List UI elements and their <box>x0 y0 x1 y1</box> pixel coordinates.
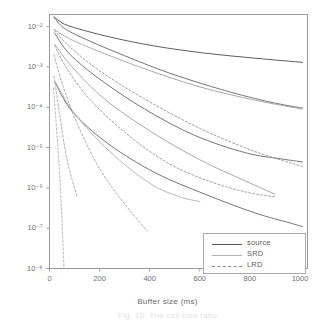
legend-label-lrd: LRD <box>247 260 263 269</box>
x-tick-label: 800 <box>230 274 270 283</box>
y-tick-label: 10⁻⁶ <box>17 183 43 192</box>
x-tick-label: 400 <box>130 274 170 283</box>
legend-label-srd: SRD <box>247 249 263 258</box>
figure-container: CLR Buffer size (ms) 10⁻²10⁻³10⁻⁴10⁻⁵10⁻… <box>0 0 335 321</box>
x-tick-label: 1000 <box>280 274 320 283</box>
x-tick-label: 600 <box>180 274 220 283</box>
y-tick-label: 10⁻⁴ <box>17 102 43 111</box>
y-tick-label: 10⁻⁵ <box>17 143 43 152</box>
y-tick-label: 10⁻³ <box>17 62 43 71</box>
y-tick-label: 10⁻⁷ <box>17 223 43 232</box>
legend-item-lrd: LRD <box>204 260 305 272</box>
x-tick-label: 200 <box>80 274 120 283</box>
x-axis-label: Buffer size (ms) <box>0 297 335 306</box>
legend-swatch-lrd <box>212 266 242 267</box>
y-tick-label: 10⁻⁸ <box>17 264 43 273</box>
legend-label-source: source <box>247 238 271 247</box>
legend-swatch-source <box>212 244 242 245</box>
y-tick-label: 10⁻² <box>17 22 43 31</box>
legend-swatch-srd <box>212 255 242 256</box>
plot-frame <box>50 15 308 269</box>
x-tick-label: 0 <box>30 274 70 283</box>
figure-caption: Fig. 10. The cell loss ratio <box>0 311 335 321</box>
chart-legend: source SRD LRD <box>203 233 306 274</box>
